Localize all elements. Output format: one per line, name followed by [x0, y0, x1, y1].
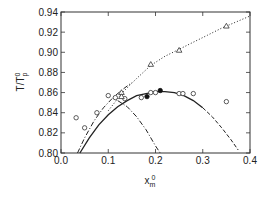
open-circle-point	[153, 90, 157, 94]
open-circle-point	[181, 91, 185, 95]
plot-frame	[61, 12, 250, 153]
x-tick-label: 0.4	[243, 155, 257, 166]
x-tick-label: 0.2	[149, 155, 163, 166]
open-circle-point	[191, 91, 195, 95]
dashed-curve	[203, 108, 239, 150]
axes-frame	[61, 12, 250, 153]
y-axis-label: T/Tp0	[14, 72, 29, 91]
open-triangle-point	[148, 62, 154, 67]
open-triangle-point	[224, 23, 230, 28]
dash-dot-curve-falling	[118, 101, 161, 153]
y-tick-label: 0.86	[39, 87, 59, 98]
y-tick-label: 0.84	[39, 107, 59, 118]
open-triangle-point	[176, 47, 182, 52]
open-circle-point	[113, 95, 117, 99]
y-tick-label: 0.90	[39, 47, 59, 58]
x-tick-label: 0.1	[101, 155, 115, 166]
solid-curve	[80, 92, 203, 153]
open-circle-point	[106, 93, 110, 97]
ticks: 0.00.10.20.30.40.800.820.840.860.880.900…	[39, 7, 258, 167]
filled-circle-point	[158, 88, 162, 92]
open-circle-point	[74, 116, 78, 120]
filled-circle-point	[145, 94, 149, 98]
x-axis-label: xm0	[145, 174, 156, 188]
dotted-curve	[108, 16, 250, 111]
open-circle-point	[224, 99, 228, 103]
chart: 0.00.10.20.30.40.800.820.840.860.880.900…	[0, 0, 267, 202]
data-points	[74, 23, 229, 130]
y-tick-label: 0.94	[39, 7, 59, 18]
y-tick-label: 0.88	[39, 67, 59, 78]
y-tick-label: 0.80	[39, 148, 59, 159]
open-circle-point	[139, 95, 143, 99]
y-tick-label: 0.92	[39, 27, 59, 38]
y-tick-label: 0.82	[39, 127, 59, 138]
curves	[78, 16, 251, 153]
open-circle-point	[149, 90, 153, 94]
open-circle-point	[82, 126, 86, 130]
open-circle-point	[95, 111, 99, 115]
x-tick-label: 0.3	[196, 155, 210, 166]
